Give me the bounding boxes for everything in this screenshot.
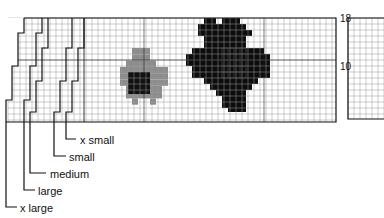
size-label-medium: medium xyxy=(50,168,89,180)
size-label-small: small xyxy=(69,151,95,163)
row-label-18: 18 xyxy=(340,14,351,24)
grey-flower-center xyxy=(128,72,150,94)
size-label-x-small: x small xyxy=(80,134,114,146)
row-label-10: 10 xyxy=(340,62,351,72)
size-label-large: large xyxy=(38,185,62,197)
size-label-x-large: x large xyxy=(20,202,53,214)
